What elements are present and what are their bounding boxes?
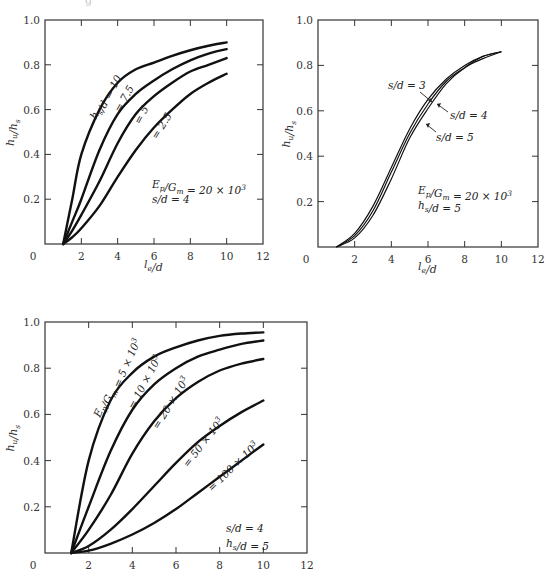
y-tick-label: 0.6: [23, 408, 40, 420]
y-tick-label: 0.8: [23, 362, 40, 374]
chart-annotation: Ep/Gm = 20 × 103: [417, 184, 512, 202]
x-tick-label: 12: [300, 559, 313, 570]
curve-label: s/d = 5: [436, 131, 474, 143]
y-tick-label: 0.4: [23, 455, 40, 467]
y-tick-label: 0.4: [296, 150, 313, 162]
x-tick-label: 12: [531, 253, 544, 265]
x-tick-label: 8: [216, 559, 223, 570]
chart-annotation: hs/d = 5: [418, 199, 461, 214]
curve-label: = 5: [131, 103, 151, 126]
curve-label: = 100 × 103: [204, 438, 261, 493]
chart-annotation: s/d = 4: [152, 193, 190, 205]
y-tick-label: 1.0: [23, 14, 40, 26]
panel-a: 0246810120.20.40.60.81.0hu/hsle/dEp/Gm =…: [4, 14, 270, 274]
x-tick-label: 10: [220, 250, 233, 262]
figure-canvas: 0246810120.20.40.60.81.0hu/hsle/dEp/Gm =…: [0, 0, 554, 570]
y-tick-label: 1.0: [296, 14, 313, 26]
curve-label: s/d = 3: [388, 79, 426, 91]
curve-label: = 2.5: [149, 110, 175, 141]
x-tick-label: 2: [78, 250, 85, 262]
series-curve: [63, 49, 227, 244]
curve-label: = 50 × 103: [179, 414, 226, 469]
x-tick-label: 6: [173, 559, 180, 570]
arrowhead-icon: [437, 103, 441, 108]
x-tick-label: 8: [461, 253, 468, 265]
y-axis-label: hu/hs: [4, 119, 22, 146]
chart-annotation: s/d = 4: [226, 522, 264, 534]
y-tick-label: 0.8: [23, 59, 40, 71]
y-tick-label: 0.2: [296, 196, 313, 208]
y-tick-label: 0.2: [23, 501, 40, 513]
series-curve: [63, 74, 227, 244]
y-axis-label: hu/hs: [280, 121, 298, 148]
x-tick-label: 2: [85, 559, 92, 570]
x-tick-label: 4: [388, 253, 395, 265]
y-tick-label: 0.6: [296, 105, 313, 117]
x-tick-label: 8: [187, 250, 194, 262]
x-tick-label: 0: [30, 559, 37, 570]
x-tick-label: 10: [257, 559, 270, 570]
panel-b: 0246810120.20.40.60.81.0hu/hsle/dEp/Gm =…: [280, 14, 545, 276]
x-axis-label: le/d: [418, 260, 437, 276]
y-tick-label: 0.6: [23, 104, 40, 116]
x-tick-label: 2: [351, 253, 358, 265]
x-tick-label: 0: [303, 253, 310, 265]
y-tick-label: 0.2: [23, 193, 40, 205]
x-axis-label: le/d: [144, 258, 163, 274]
y-tick-label: 0.4: [23, 148, 40, 160]
y-tick-label: 0.8: [296, 59, 313, 71]
chart-annotation: hs/d = 5: [226, 537, 269, 552]
y-tick-label: 1.0: [23, 316, 40, 328]
y-axis-label: hu/hs: [4, 425, 22, 452]
curve-label: s/d = 4: [450, 109, 488, 121]
panel-c: 0246810120.20.40.60.81.0hu/hss/d = 4hs/d…: [4, 316, 314, 570]
x-tick-label: 0: [30, 250, 37, 262]
x-tick-label: 4: [114, 250, 121, 262]
x-tick-label: 4: [129, 559, 136, 570]
series-curve: [63, 42, 227, 244]
x-tick-label: 12: [256, 250, 269, 262]
x-tick-label: 10: [495, 253, 508, 265]
